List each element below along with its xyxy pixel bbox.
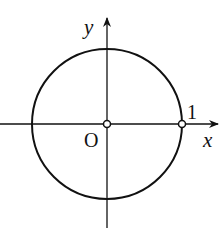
diagram-canvas: y x O 1 bbox=[0, 0, 220, 228]
origin-label: O bbox=[84, 129, 98, 151]
origin-point bbox=[104, 121, 111, 128]
x-axis-label: x bbox=[202, 128, 213, 152]
y-axis-label: y bbox=[82, 15, 94, 39]
unit-circle-diagram: y x O 1 bbox=[0, 0, 220, 228]
point-one-label: 1 bbox=[187, 101, 197, 123]
point-one bbox=[179, 121, 186, 128]
